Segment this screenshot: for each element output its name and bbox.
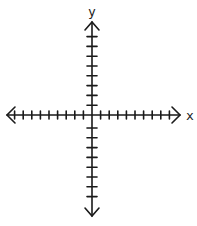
y-axis-label: y bbox=[88, 4, 96, 19]
x-axis-label: x bbox=[186, 108, 194, 123]
x-axis bbox=[7, 107, 180, 123]
coordinate-plane: x y bbox=[0, 0, 197, 226]
y-axis bbox=[85, 22, 99, 216]
